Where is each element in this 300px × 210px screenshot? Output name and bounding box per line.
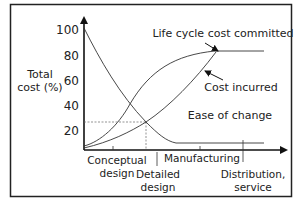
life-cycle-cost-committed-curve	[84, 51, 264, 146]
y-tick-40: 40	[64, 99, 79, 113]
label-life-cycle-cost-committed: Life cycle cost committed	[152, 27, 293, 40]
cost-lifecycle-diagram: 100 80 60 40 20 Total cost (%) Life cycl…	[0, 0, 300, 210]
phase-conceptual-line1: Conceptual	[87, 154, 146, 166]
cost-incurred-curve	[84, 52, 216, 148]
phase-distribution-line1: Distribution,	[221, 168, 286, 180]
pointer-committed	[205, 43, 218, 51]
label-cost-incurred: Cost incurred	[204, 81, 277, 94]
label-ease-of-change: Ease of change	[188, 109, 272, 122]
y-tick-80: 80	[64, 49, 79, 63]
phase-detailed-line2: design	[141, 181, 176, 193]
y-tick-20: 20	[64, 124, 79, 138]
phase-detailed-line1: Detailed	[136, 168, 180, 180]
pointer-incurred	[205, 71, 223, 80]
phase-distribution-line2: service	[234, 181, 272, 193]
y-axis-label-line1: Total	[26, 68, 53, 81]
y-axis-label-line2: cost (%)	[17, 81, 62, 94]
phase-manufacturing: Manufacturing	[164, 152, 240, 164]
phase-conceptual-line2: design	[100, 167, 135, 179]
y-tick-100: 100	[56, 23, 79, 37]
y-tick-60: 60	[64, 74, 79, 88]
